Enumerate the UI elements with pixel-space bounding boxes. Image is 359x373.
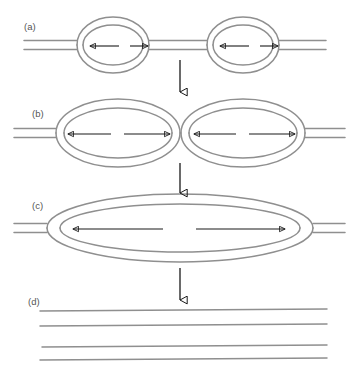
bubble-1-outer-bottom-strand xyxy=(56,133,180,167)
panel-label-b: (b) xyxy=(32,108,44,119)
panel-label-c: (c) xyxy=(32,200,43,211)
bubble-1-inner-bottom-strand xyxy=(83,45,143,65)
panel-a xyxy=(24,17,326,73)
bubble-1-inner-bottom-strand xyxy=(64,133,172,158)
bubble-2-outer-bottom-strand xyxy=(181,133,305,167)
panel-d xyxy=(40,309,327,360)
bubble-1-outer-top-strand xyxy=(77,17,149,45)
bubble-1-inner-top-strand xyxy=(64,108,172,133)
bubble-1-inner-top-strand xyxy=(83,25,143,45)
replication-diagram-svg: (a)(b)(c)(d) xyxy=(0,0,359,373)
bubble-2-outer-top-strand xyxy=(181,99,305,133)
bubble-2-outer-bottom-strand xyxy=(207,45,279,73)
daughter-strand-2 xyxy=(40,324,327,326)
bubble-2-inner-bottom-strand xyxy=(189,133,297,158)
panel-labels-layer: (a)(b)(c)(d) xyxy=(24,21,44,307)
bubble-2-inner-bottom-strand xyxy=(213,45,273,65)
bubble-1-inner-top-strand xyxy=(60,204,300,228)
bubble-1-outer-top-strand xyxy=(56,99,180,133)
bubble-1-outer-top-strand xyxy=(47,194,313,228)
panel-label-d: (d) xyxy=(28,296,40,307)
bubble-2-inner-top-strand xyxy=(213,25,273,45)
replication-figure: (a)(b)(c)(d) xyxy=(0,0,359,373)
bubble-2-outer-top-strand xyxy=(207,17,279,45)
bubble-1-outer-bottom-strand xyxy=(47,228,313,262)
bubble-1-inner-bottom-strand xyxy=(60,228,300,252)
panel-label-a: (a) xyxy=(24,21,36,32)
daughter-strand-4 xyxy=(40,358,327,360)
bubble-2-inner-top-strand xyxy=(189,108,297,133)
bubble-1-outer-bottom-strand xyxy=(77,45,149,73)
daughter-strand-3 xyxy=(42,345,327,347)
panel-c xyxy=(14,194,345,262)
daughter-strand-1 xyxy=(40,309,327,311)
panel-b xyxy=(14,99,345,167)
